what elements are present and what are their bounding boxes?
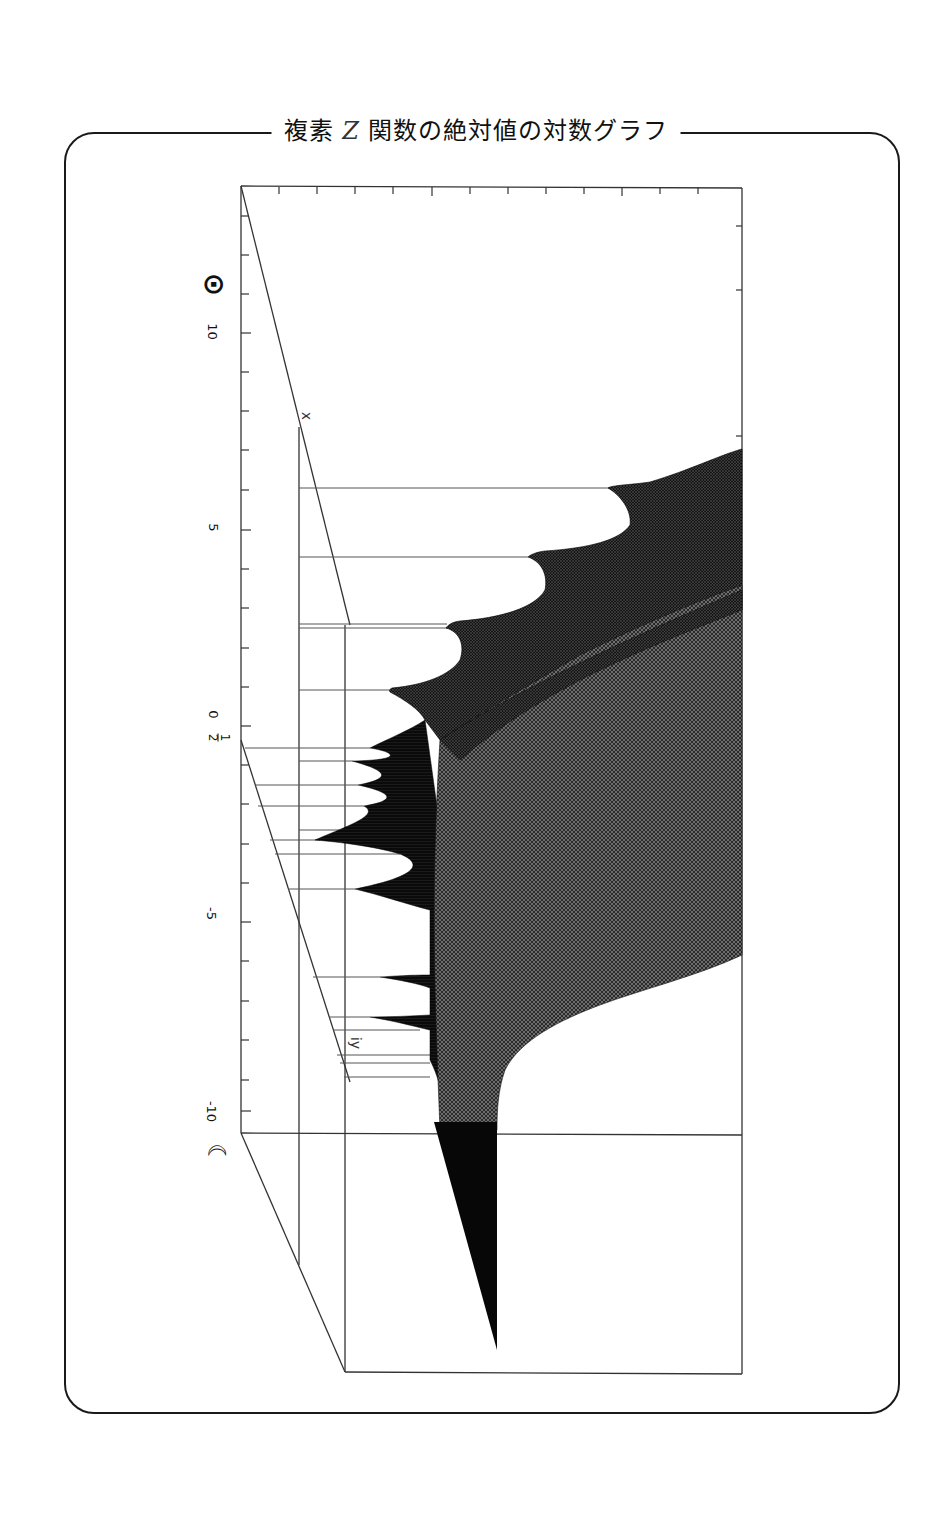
surface-tail — [434, 1122, 497, 1350]
axis-symbol-top-icon: ⊙ — [198, 273, 231, 296]
axis-symbol-bottom-icon: ☽ — [204, 1143, 232, 1165]
surface-plot — [0, 0, 952, 1527]
y-axis-letter: iy — [348, 1037, 364, 1049]
half-numerator: 1 — [219, 734, 230, 742]
tick-label-5: 5 — [206, 523, 221, 531]
tick-label-0: 0 — [206, 710, 221, 718]
half-denominator: 2 — [207, 734, 218, 742]
x-axis-letter: x — [299, 412, 315, 420]
left-ticks — [241, 216, 251, 1111]
top-ticks — [279, 187, 742, 436]
tick-label-half: 1 2 — [207, 734, 230, 742]
tick-label-neg5: -5 — [204, 907, 219, 920]
tick-label-10: 10 — [205, 323, 220, 340]
tick-label-neg10: -10 — [204, 1101, 219, 1122]
